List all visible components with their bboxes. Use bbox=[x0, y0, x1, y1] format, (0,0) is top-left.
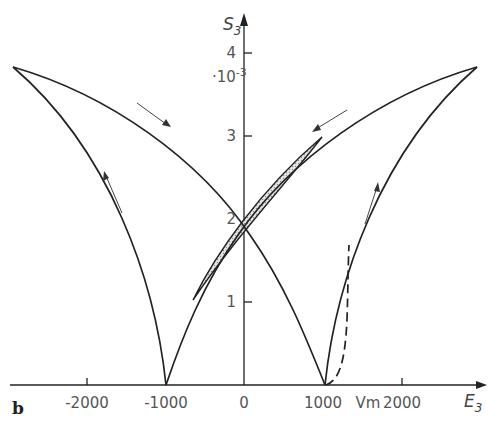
y-tick-label: 4 bbox=[226, 44, 236, 62]
curve-right-outer-branch bbox=[325, 67, 477, 385]
x-axis-unit: Vm bbox=[356, 394, 381, 412]
arrow-down-left-icon bbox=[312, 124, 321, 132]
y-tick-label: 2 bbox=[226, 210, 236, 228]
y-axis-title: S3 bbox=[223, 14, 241, 38]
x-tick-label: -2000 bbox=[65, 394, 109, 412]
arrow-down-right-icon bbox=[162, 119, 171, 127]
y-tick-label: 3 bbox=[226, 127, 236, 145]
y-axis-scale-factor: ·10-3 bbox=[212, 66, 247, 86]
x-axis-arrowhead-icon bbox=[476, 381, 487, 389]
x-axis-title: E3 bbox=[464, 391, 482, 415]
x-tick-label: 1000 bbox=[304, 394, 342, 412]
direction-arrows bbox=[103, 103, 380, 224]
x-tick-label: 2000 bbox=[383, 394, 421, 412]
x-tick-label: -1000 bbox=[144, 394, 188, 412]
arrow-up-left-icon bbox=[103, 171, 109, 181]
y-tick-label: 1 bbox=[226, 293, 236, 311]
curve-left-outer-branch bbox=[13, 67, 166, 385]
x-tick-label: 0 bbox=[239, 394, 249, 412]
panel-label: b bbox=[12, 398, 24, 418]
arrow-up-right-icon bbox=[374, 182, 380, 192]
butterfly-strain-chart: -2000 -1000 0 1000 2000 Vm 1 2 3 4 ·10-3… bbox=[0, 0, 499, 423]
x-axis bbox=[10, 378, 487, 389]
